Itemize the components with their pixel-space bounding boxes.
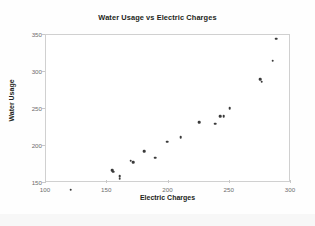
scatter-point: [222, 115, 225, 118]
scatter-point: [260, 80, 263, 83]
x-tick-mark: [229, 180, 230, 183]
y-tick-label: 250: [18, 105, 42, 112]
scatter-point: [271, 60, 274, 63]
scatter-point: [275, 37, 278, 40]
scatter-point: [166, 140, 169, 143]
y-tick-label: 350: [18, 31, 42, 38]
x-tick-mark: [168, 180, 169, 183]
x-tick-label: 150: [91, 186, 121, 193]
y-tick-label: 150: [18, 179, 42, 186]
x-tick-label: 200: [153, 186, 183, 193]
scatter-point: [118, 177, 121, 180]
figure-bottom-band: [0, 214, 315, 226]
y-axis-tick-labels: 150200250300350: [14, 34, 42, 182]
y-tick-label: 300: [18, 68, 42, 75]
scatter-point: [179, 136, 182, 139]
x-tick-mark: [290, 180, 291, 183]
scatter-points-layer: [46, 35, 289, 181]
chart-title: Water Usage vs Electric Charges: [0, 13, 315, 22]
scatter-point: [214, 123, 217, 126]
x-axis-label: Electric Charges: [45, 194, 290, 201]
scatter-point: [154, 157, 157, 160]
scatter-point: [228, 107, 231, 110]
x-tick-label: 250: [214, 186, 244, 193]
plot-area: [45, 34, 290, 182]
scatter-point: [143, 150, 146, 153]
x-tick-mark: [45, 180, 46, 183]
scatter-point: [112, 171, 115, 174]
scatter-point: [219, 115, 222, 118]
x-tick-mark: [106, 180, 107, 183]
x-tick-label: 300: [275, 186, 305, 193]
y-tick-label: 200: [18, 142, 42, 149]
scatter-point: [132, 161, 135, 164]
x-tick-label: 100: [30, 186, 60, 193]
chart-figure: Water Usage vs Electric Charges Water Us…: [0, 0, 315, 226]
scatter-point: [198, 121, 201, 124]
